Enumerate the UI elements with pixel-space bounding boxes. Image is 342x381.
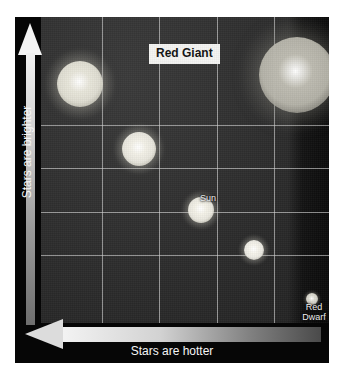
star-upper-mid-star — [122, 132, 156, 166]
gridline-horizontal-4 — [41, 255, 329, 256]
star-disc — [122, 132, 156, 166]
plot-area: Red Giant Sun RedDwarf — [41, 17, 329, 323]
y-axis: Stars are brighter — [15, 17, 41, 363]
star-disc — [57, 61, 103, 107]
label-red-giant: Red Giant — [149, 44, 220, 64]
gridline-horizontal-1 — [41, 125, 329, 126]
arrow-up-icon — [18, 23, 42, 55]
x-axis: Stars are hotter — [15, 323, 329, 363]
label-red-dwarf: RedDwarf — [292, 302, 329, 322]
gridline-horizontal-3 — [41, 212, 329, 213]
star-disc — [244, 240, 264, 260]
label-red-dwarf-line2: Dwarf — [302, 312, 326, 322]
star-bright-cool-giant — [57, 61, 103, 107]
x-axis-gradient-bar — [62, 327, 321, 342]
diagram-frame: Red Giant Sun RedDwarf Stars are brighte… — [15, 17, 329, 363]
gridline-horizontal-2 — [41, 168, 329, 169]
x-axis-label: Stars are hotter — [15, 344, 329, 358]
y-axis-label: Stars are brighter — [20, 82, 34, 222]
star-lower-small-star — [244, 240, 264, 260]
star-red-giant — [259, 37, 329, 113]
label-sun: Sun — [188, 193, 228, 203]
label-red-dwarf-line1: Red — [306, 302, 323, 312]
star-brightness-temperature-diagram: Red Giant Sun RedDwarf Stars are brighte… — [0, 0, 342, 381]
gridline-vertical-1 — [102, 17, 103, 323]
star-disc — [259, 37, 329, 113]
